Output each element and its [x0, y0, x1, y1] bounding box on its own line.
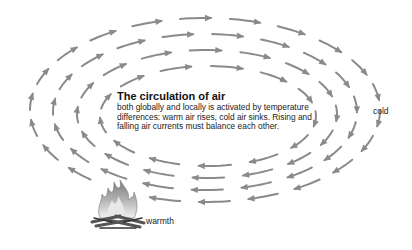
arrowhead-icon	[50, 97, 56, 105]
arrowhead-icon	[187, 31, 195, 37]
cold-label: cold	[373, 106, 389, 116]
campfire-icon	[90, 178, 146, 230]
arrowhead-icon	[254, 19, 262, 25]
arrowhead-icon	[354, 106, 360, 114]
diagram-title: The circulation of air	[117, 90, 225, 102]
arrowhead-icon	[148, 195, 156, 201]
arrowhead-icon	[293, 184, 301, 190]
arrowhead-icon	[205, 15, 213, 21]
arrowhead-icon	[54, 123, 60, 131]
arrowhead-icon	[282, 42, 290, 48]
arrowhead-icon	[191, 175, 199, 181]
arrowhead-icon	[334, 115, 340, 123]
arrowhead-icon	[376, 120, 382, 128]
arrowhead-icon	[119, 63, 127, 69]
arrowhead-icon	[109, 30, 117, 36]
arrowhead-icon	[298, 29, 306, 35]
warmth-label: warmth	[146, 216, 174, 226]
diagram-description: both globally and locally is activated b…	[117, 103, 317, 132]
arrowhead-icon	[137, 75, 145, 81]
arrowhead-icon	[148, 157, 156, 163]
arrowhead-icon	[248, 158, 256, 164]
arrowhead-icon	[28, 92, 34, 100]
arrowhead-icon	[190, 187, 198, 193]
arrowhead-icon	[286, 173, 294, 179]
arrowhead-icon	[74, 105, 80, 113]
arrowhead-icon	[198, 199, 206, 205]
arrowhead-icon	[215, 47, 223, 53]
arrowhead-icon	[287, 159, 295, 165]
arrowhead-icon	[197, 163, 205, 169]
air-circulation-diagram: The circulation of air both globally and…	[0, 0, 412, 250]
